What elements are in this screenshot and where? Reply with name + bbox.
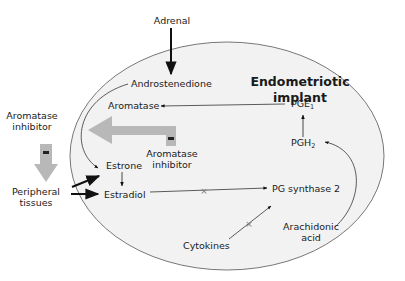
title-line-1: Endometriotic (245, 74, 355, 90)
node-pg-synthase-2: PG synthase 2 (272, 183, 340, 194)
block-mark-cytokines: × (245, 219, 253, 229)
node-pgh2: PGH2 (291, 137, 315, 152)
block-mark-estradiol: × (200, 186, 208, 196)
inhibit-symbol-outer (43, 151, 49, 154)
node-estradiol: Estradiol (104, 189, 146, 200)
inhibitor-arrow-outer (34, 144, 58, 182)
outer-inhibitor-line-2: inhibitor (0, 121, 64, 132)
arachidonic-line-1: Arachidonic (278, 221, 344, 232)
node-aromatase: Aromatase (108, 100, 159, 111)
outer-aromatase-inhibitor-label: Aromatase inhibitor (0, 110, 64, 132)
node-estrone: Estrone (106, 160, 142, 171)
inner-aromatase-inhibitor-label: Aromatase inhibitor (140, 148, 204, 170)
arachidonic-line-2: acid (278, 232, 344, 243)
pgh2-base: PGH (291, 137, 311, 148)
node-peripheral-tissues: Peripheral tissues (6, 186, 66, 208)
peripheral-line-1: Peripheral (6, 186, 66, 197)
inner-inhibitor-line-2: inhibitor (140, 159, 204, 170)
node-pge1: PGE1 (291, 98, 314, 113)
pge1-sub: 1 (310, 103, 314, 111)
pge1-base: PGE (291, 98, 310, 109)
outer-inhibitor-line-1: Aromatase (0, 110, 64, 121)
peripheral-line-2: tissues (6, 197, 66, 208)
node-adrenal: Adrenal (150, 15, 194, 26)
node-arachidonic-acid: Arachidonic acid (278, 221, 344, 243)
inner-inhibitor-line-1: Aromatase (140, 148, 204, 159)
inhibit-symbol-inner (168, 137, 174, 140)
node-androstenedione: Androstenedione (131, 78, 212, 89)
pgh2-sub: 2 (311, 142, 315, 150)
diagram-canvas: × × (0, 0, 405, 281)
node-cytokines: Cytokines (183, 240, 230, 251)
